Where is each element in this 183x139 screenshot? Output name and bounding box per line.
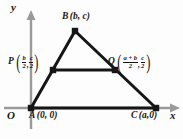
point-label-b: B(b, c) xyxy=(62,12,90,22)
point-label-p-name: P xyxy=(8,56,15,66)
fraction-denominator: 2 xyxy=(123,62,137,70)
point-label-b-name: B xyxy=(62,11,70,21)
point-label-a-coords: (0, 0) xyxy=(37,110,58,120)
geometry-figure: y x O B(b, c) A(0, 0) C(a,0) P(b2,c2) Q(… xyxy=(0,0,183,139)
point-label-c-name: C xyxy=(131,110,139,120)
close-paren: ) xyxy=(35,54,39,70)
point-label-b-coords: (b, c) xyxy=(70,11,90,21)
point-label-p-coords: (b2,c2) xyxy=(15,54,40,70)
y-axis-arrowhead xyxy=(27,10,36,20)
y-axis-label: y xyxy=(11,2,16,13)
point-label-q-coords: (a + b2,c2) xyxy=(116,54,151,70)
fraction-denominator: 2 xyxy=(29,62,33,70)
point-label-c: C(a,0) xyxy=(131,111,157,121)
fraction-numerator: a + b xyxy=(123,55,137,62)
point-marker-b xyxy=(72,28,78,34)
x-axis-label: x xyxy=(170,110,176,121)
point-marker-p xyxy=(50,67,56,73)
point-label-c-coords: (a,0) xyxy=(139,110,157,120)
fraction-y-q: c2 xyxy=(141,55,145,70)
point-label-a: A(0, 0) xyxy=(29,111,57,121)
close-paren: ) xyxy=(146,54,150,70)
fraction-y-p: c2 xyxy=(29,55,33,70)
origin-label: O xyxy=(7,110,15,121)
fraction-numerator: c xyxy=(141,55,145,62)
fraction-denominator: 2 xyxy=(141,62,145,70)
open-paren: ( xyxy=(17,54,21,70)
point-label-q-name: Q xyxy=(108,56,116,66)
point-label-a-name: A xyxy=(29,110,37,120)
fraction-x-q: a + b2 xyxy=(123,55,137,70)
open-paren: ( xyxy=(118,54,122,70)
point-label-p: P(b2,c2) xyxy=(8,54,40,70)
point-label-q: Q(a + b2,c2) xyxy=(108,54,151,70)
fraction-numerator: c xyxy=(29,55,33,62)
